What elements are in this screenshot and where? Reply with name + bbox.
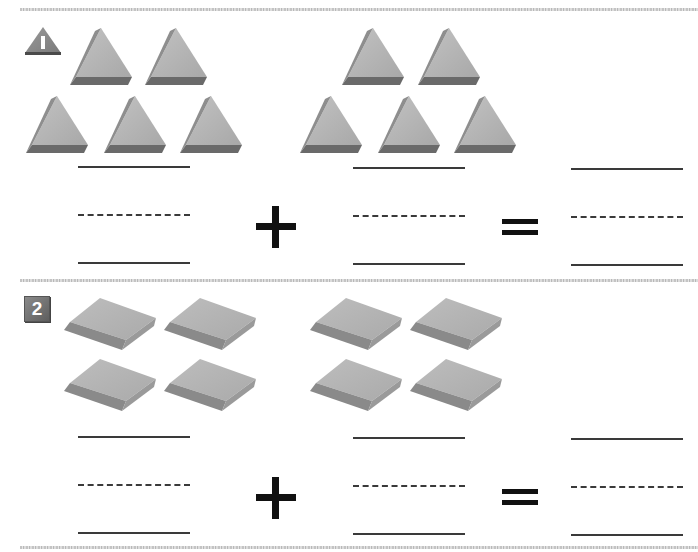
plus-icon <box>256 206 296 248</box>
base-line <box>78 532 190 534</box>
mid-dashed-line <box>571 486 683 488</box>
equals-icon <box>502 219 538 237</box>
top-line <box>78 436 190 438</box>
rhombus-tile-icon <box>162 357 258 413</box>
mid-dashed-line <box>353 485 465 487</box>
rhombus-tile-icon <box>308 357 404 413</box>
problem-number-badge: 1 <box>24 26 62 56</box>
triangle-prism-icon <box>143 27 213 89</box>
top-divider <box>20 8 698 11</box>
mid-dashed-line <box>78 214 190 216</box>
triangle-prism-icon <box>102 95 172 157</box>
rhombus-tile-icon <box>408 357 504 413</box>
triangle-prism-icon <box>416 27 486 89</box>
plus-icon <box>256 477 296 519</box>
top-line <box>78 166 190 168</box>
rhombus-tile-icon <box>62 296 158 352</box>
base-line <box>571 264 683 266</box>
triangle-prism-icon <box>24 95 94 157</box>
triangle-prism-icon <box>376 95 446 157</box>
base-line <box>353 263 465 265</box>
number-one-glyph <box>41 36 45 49</box>
base-line <box>571 534 683 536</box>
top-line <box>571 168 683 170</box>
triangle-prism-icon <box>68 27 138 89</box>
base-line <box>353 533 465 535</box>
triangle-prism-icon <box>178 95 248 157</box>
mid-dashed-line <box>353 215 465 217</box>
triangle-prism-icon <box>298 95 368 157</box>
mid-dashed-line <box>78 484 190 486</box>
problem-number-badge: 2 <box>24 296 50 322</box>
section-divider <box>20 279 698 282</box>
triangle-prism-icon <box>340 27 410 89</box>
triangle-prism-icon <box>452 95 522 157</box>
bottom-divider <box>20 546 698 549</box>
top-line <box>353 437 465 439</box>
top-line <box>571 438 683 440</box>
rhombus-tile-icon <box>408 296 504 352</box>
base-line <box>78 262 190 264</box>
rhombus-tile-icon <box>62 357 158 413</box>
rhombus-tile-icon <box>308 296 404 352</box>
equals-icon <box>502 489 538 507</box>
rhombus-tile-icon <box>162 296 258 352</box>
top-line <box>353 167 465 169</box>
mid-dashed-line <box>571 216 683 218</box>
